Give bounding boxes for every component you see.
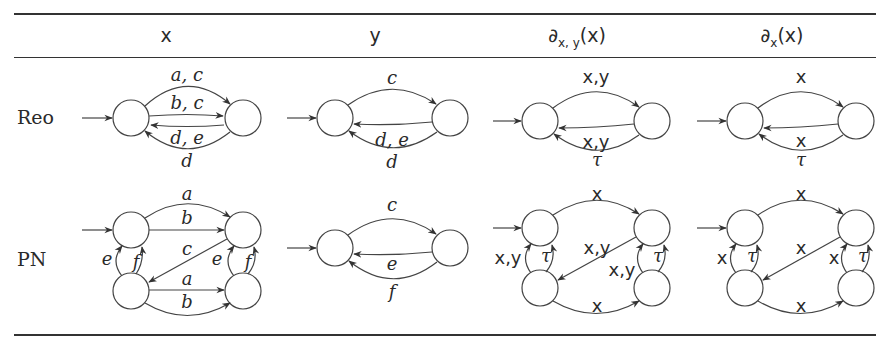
edge-label: d bbox=[386, 151, 398, 172]
edge-label: x bbox=[796, 295, 807, 316]
edge-label: x bbox=[717, 247, 728, 268]
edge-label: x bbox=[592, 183, 603, 204]
edge-label: c bbox=[387, 67, 397, 88]
edge-label: b bbox=[181, 291, 193, 312]
edge-label: x bbox=[796, 183, 807, 204]
edge-label: x,y bbox=[582, 66, 609, 87]
edge-label: τ bbox=[592, 149, 603, 170]
edge-label: a, c bbox=[171, 64, 203, 85]
edge-label: a bbox=[182, 183, 193, 204]
edge-label: x,y bbox=[494, 247, 521, 268]
automata-diagrams: a, c b, c d, e d c d, e d x,y x,y τ x x … bbox=[0, 0, 893, 350]
edge-label: b bbox=[181, 207, 193, 228]
edge-label: x bbox=[796, 130, 807, 151]
edge-label: f bbox=[243, 251, 255, 272]
edge-label: τ bbox=[541, 245, 552, 266]
edge-label: x bbox=[592, 295, 603, 316]
edge-label: a bbox=[182, 268, 193, 289]
edge-label: x bbox=[829, 247, 840, 268]
edge-label: d bbox=[181, 150, 193, 171]
edge-label: τ bbox=[858, 245, 869, 266]
diagram-pn-y bbox=[287, 219, 468, 279]
edge-label: τ bbox=[747, 245, 758, 266]
diagram-reo-partial-x bbox=[697, 92, 874, 151]
edge-label: e bbox=[102, 248, 113, 269]
edge-label: x,y bbox=[608, 259, 635, 280]
edge-label: x bbox=[796, 237, 807, 258]
edge-label: c bbox=[182, 238, 192, 259]
edge-label: τ bbox=[796, 149, 807, 170]
edge-label: f bbox=[387, 281, 399, 302]
edge-label: d, e bbox=[170, 127, 204, 148]
edge-label: d, e bbox=[375, 129, 409, 150]
edge-label: τ bbox=[653, 245, 664, 266]
edge-label: c bbox=[387, 194, 397, 215]
edge-label: e bbox=[387, 253, 398, 274]
edge-label: b, c bbox=[170, 92, 203, 113]
edge-label: e bbox=[212, 248, 223, 269]
edge-label: x bbox=[796, 66, 807, 87]
edge-label: x,y bbox=[583, 237, 610, 258]
